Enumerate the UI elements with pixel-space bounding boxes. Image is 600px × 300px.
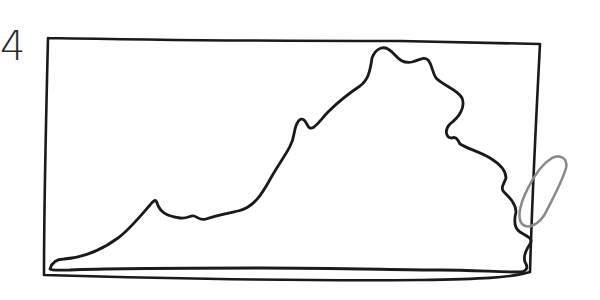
state-outline — [50, 48, 531, 272]
virginia-sketch — [0, 0, 600, 300]
sketch-canvas: 4 — [0, 0, 600, 300]
frame-rectangle — [44, 38, 540, 280]
eastern-shore-oval — [520, 156, 567, 226]
